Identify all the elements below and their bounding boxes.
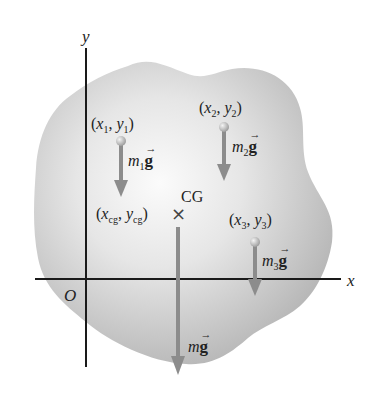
cg-coordinates: (xcg, ycg) [96,206,148,222]
mass-1-weight-label: m1→g [128,152,153,169]
mass-1-point [116,136,126,146]
mass-3-coordinates: (x3, y3) [229,212,272,228]
mass-2-point [219,122,229,132]
mass-1-coordinates: (x1, y1) [91,116,134,132]
center-of-gravity-figure: y x O (x1, y1) m1→g (x2, y2) m2→g (x3, y… [0,0,384,399]
x-axis-label: x [347,272,355,289]
mass-3-weight-label: m3→g [262,252,287,269]
total-weight-label: m→g [188,338,208,355]
mass-2-weight-label: m2→g [232,138,257,155]
mass-3-point [250,237,260,247]
y-axis-label: y [82,28,90,45]
cg-marker-icon: × [171,205,186,223]
origin-label: O [64,287,76,304]
mass-2-coordinates: (x2, y2) [199,100,242,116]
